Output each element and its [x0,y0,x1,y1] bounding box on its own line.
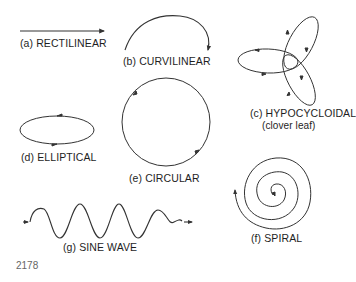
elliptical-path [20,114,94,146]
circular-path [122,78,210,166]
label-elliptical: (d) ELLIPTICAL [21,151,97,163]
spiral-path [235,158,311,229]
label-spiral: (f) SPIRAL [251,232,302,244]
label-curvilinear: (b) CURVILINEAR [123,55,211,67]
label-hypocycloidal: (c) HYPOCYCLOIDAL [250,107,356,119]
figure-number: 2178 [16,260,38,271]
hypocycloidal-path [238,12,326,110]
curvilinear-path [125,16,209,50]
sine-wave-path [23,204,192,238]
label-rectilinear: (a) RECTILINEAR [20,37,107,49]
label-clover-leaf: (clover leaf) [262,120,316,131]
label-sine-wave: (g) SINE WAVE [63,241,137,253]
label-circular: (e) CIRCULAR [129,172,200,184]
